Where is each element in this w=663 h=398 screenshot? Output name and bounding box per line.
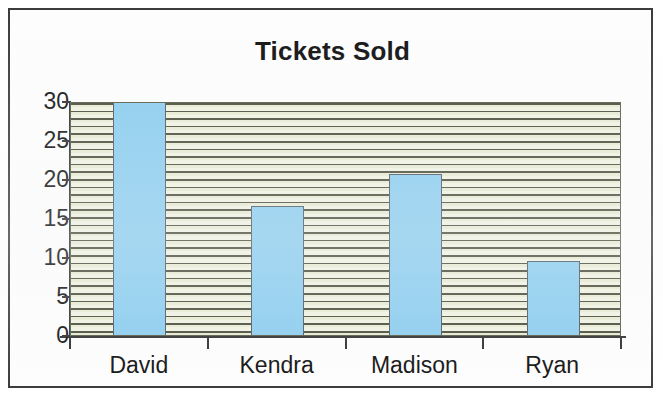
x-tick-mark	[69, 338, 71, 349]
x-tick-label-david: David	[70, 354, 208, 377]
bar-madison	[389, 174, 442, 335]
x-tick-mark	[620, 338, 622, 349]
x-tick-label-ryan: Ryan	[483, 354, 621, 377]
x-tick-mark	[207, 338, 209, 349]
x-tick-mark	[482, 338, 484, 349]
bar-david	[113, 102, 166, 335]
chart-title: Tickets Sold	[10, 36, 655, 67]
x-tick-label-madison: Madison	[346, 354, 484, 377]
x-tick-label-kendra: Kendra	[208, 354, 346, 377]
plot-area	[70, 102, 621, 336]
chart-frame: Tickets Sold 051015202530 DavidKendraMad…	[8, 8, 653, 388]
x-tick-mark	[345, 338, 347, 349]
y-axis-ticks: 051015202530	[10, 10, 69, 390]
x-axis-line	[60, 336, 626, 338]
bar-kendra	[251, 206, 304, 335]
bar-ryan	[527, 261, 580, 335]
